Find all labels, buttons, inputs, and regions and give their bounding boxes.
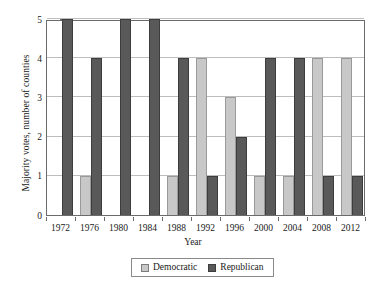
bar-democratic-2008 [312, 58, 323, 215]
x-tick-mark [220, 217, 221, 221]
x-tick-label-1980: 1980 [109, 223, 128, 233]
bar-republican-2008 [323, 176, 334, 215]
bar-democratic-1976 [80, 176, 91, 215]
x-tick-mark [162, 217, 163, 221]
x-tick-mark [133, 217, 134, 221]
x-tick-label-1976: 1976 [80, 223, 99, 233]
y-tick-label: 2 [20, 133, 42, 143]
bar-republican-2000 [265, 58, 276, 215]
x-tick-mark [75, 217, 76, 221]
x-tick-label-1996: 1996 [225, 223, 244, 233]
y-tick-label: 0 [20, 211, 42, 221]
x-tick-label-1988: 1988 [167, 223, 186, 233]
y-tick-label: 3 [20, 94, 42, 104]
republican-swatch [208, 264, 216, 272]
legend-entry-republican: Republican [208, 263, 263, 273]
plot-area [46, 20, 365, 216]
x-tick-mark [104, 217, 105, 221]
x-tick-mark [249, 217, 250, 221]
x-tick-label-2012: 2012 [341, 223, 360, 233]
x-tick-label-2008: 2008 [312, 223, 331, 233]
bar-chart: Majority votes, number of counties 01234… [0, 0, 386, 291]
x-tick-mark [278, 217, 279, 221]
gridline [47, 18, 364, 19]
legend-label: Republican [220, 263, 263, 273]
bars-layer [47, 21, 364, 215]
bar-republican-1976 [91, 58, 102, 215]
x-axis-title: Year [0, 237, 386, 247]
y-tick-label: 5 [20, 15, 42, 25]
legend-label: Democratic [153, 263, 197, 273]
x-tick-mark [307, 217, 308, 221]
x-tick-mark [46, 217, 47, 221]
bar-democratic-1992 [196, 58, 207, 215]
x-tick-mark [336, 217, 337, 221]
bar-republican-1984 [149, 19, 160, 215]
bar-republican-1992 [207, 176, 218, 215]
chart-legend: DemocraticRepublican [131, 258, 274, 277]
bar-republican-1980 [120, 19, 131, 215]
x-tick-mark [191, 217, 192, 221]
x-tick-label-1992: 1992 [196, 223, 215, 233]
legend-entry-democratic: Democratic [141, 263, 197, 273]
bar-democratic-2004 [283, 176, 294, 215]
x-tick-label-1984: 1984 [138, 223, 157, 233]
bar-republican-1972 [62, 19, 73, 215]
y-axis-tick-labels: 012345 [18, 20, 42, 216]
bar-democratic-2012 [341, 58, 352, 215]
x-tick-label-2000: 2000 [254, 223, 273, 233]
democratic-swatch [141, 264, 149, 272]
bar-republican-2004 [294, 58, 305, 215]
y-tick-label: 1 [20, 172, 42, 182]
y-tick-label: 4 [20, 54, 42, 64]
bar-republican-2012 [352, 176, 363, 215]
bar-democratic-1996 [225, 97, 236, 215]
x-tick-label-2004: 2004 [283, 223, 302, 233]
bar-republican-1996 [236, 137, 247, 215]
bar-republican-1988 [178, 58, 189, 215]
bar-democratic-1988 [167, 176, 178, 215]
bar-democratic-2000 [254, 176, 265, 215]
x-tick-label-1972: 1972 [51, 223, 70, 233]
x-tick-mark [365, 217, 366, 221]
